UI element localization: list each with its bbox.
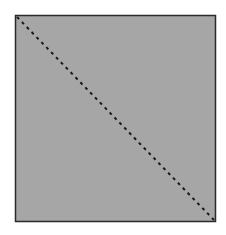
diagram-canvas xyxy=(0,0,226,235)
